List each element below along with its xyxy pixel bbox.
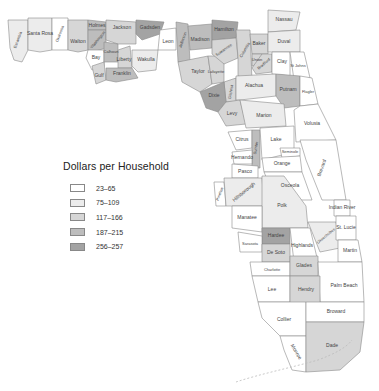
county-label: Glades	[296, 262, 312, 268]
legend-swatch	[70, 213, 85, 221]
county-label: De Soto	[267, 249, 285, 255]
county-label: Santa Rosa	[27, 30, 53, 36]
county-label: St. Lucie	[336, 224, 356, 230]
county-label: Levy	[227, 110, 238, 116]
county-label: Volusia	[304, 120, 320, 126]
county-label: Union	[252, 57, 262, 62]
county-label: Wakulla	[137, 56, 155, 62]
county-label: Alachua	[245, 82, 263, 88]
county-label: Palm Beach	[331, 282, 358, 288]
legend-label: 23–65	[96, 185, 115, 192]
legend-swatch	[70, 184, 85, 192]
county-label: Madison	[191, 36, 210, 42]
map-legend: Dollars per Household 23–6575–109117–166…	[60, 160, 240, 254]
legend-label: 117–166	[96, 214, 123, 221]
county-label: Leon	[162, 38, 173, 44]
legend-swatch	[70, 228, 85, 236]
legend-label: 256–257	[96, 243, 123, 250]
county-label: Clay	[277, 58, 288, 64]
county-label: Charlotte	[264, 267, 281, 272]
county-label: Dade	[326, 342, 338, 348]
legend-swatch	[70, 199, 85, 207]
county-label: Franklin	[113, 70, 131, 76]
county-label: St Johns	[290, 63, 306, 68]
legend-title: Dollars per Household	[63, 160, 240, 172]
county-label: Calhoun	[104, 49, 119, 54]
legend-item: 187–215	[70, 225, 240, 240]
legend-label: 75–109	[96, 199, 119, 206]
county-label: Putnam	[279, 86, 296, 92]
county-label: Gulf	[94, 72, 104, 78]
legend-item: 256–257	[70, 239, 240, 254]
county-label: Manatee	[237, 214, 257, 220]
county-label: Sarasota	[242, 241, 259, 246]
county-label: Citrus	[235, 136, 249, 142]
county-label: Dixie	[208, 92, 219, 98]
county-label: Nassau	[276, 16, 293, 22]
county-label: Lake	[271, 136, 282, 142]
county-label: Hendry	[298, 286, 315, 292]
county-label: Osceola	[281, 182, 300, 188]
legend-item: 23–65	[70, 181, 240, 196]
county-label: Hardee	[268, 232, 285, 238]
legend-item: 117–166	[70, 210, 240, 225]
legend-item: 75–109	[70, 196, 240, 211]
county-label: Pasco	[238, 168, 252, 174]
county-label: Broward	[327, 308, 346, 314]
county-walton	[68, 20, 88, 52]
county-label: Taylor	[191, 68, 205, 74]
county-label: Liberty	[116, 56, 132, 62]
county-label: Lafayette	[208, 69, 225, 74]
county-label: Indian River	[329, 204, 356, 210]
county-label: Polk	[277, 202, 287, 208]
county-label: Marion	[256, 112, 272, 118]
county-label: Seminole	[282, 149, 299, 154]
county-label: Orange	[274, 160, 291, 166]
county-label: Baker	[252, 40, 265, 46]
legend-swatch	[70, 243, 85, 251]
county-label: Flagler	[302, 89, 315, 94]
county-label: Jackson	[113, 24, 132, 30]
county-label: Duval	[278, 38, 291, 44]
county-label: Hamilton	[214, 26, 234, 32]
county-label: Highlands	[291, 242, 314, 248]
legend-label: 187–215	[96, 229, 123, 236]
county-label: Collier	[277, 316, 292, 322]
county-label: Holmes	[89, 22, 106, 28]
county-label: Lee	[268, 286, 277, 292]
county-label: Gadsden	[140, 24, 161, 30]
county-label: Martin	[343, 247, 357, 253]
county-label: Bay	[92, 54, 101, 60]
county-label: Walton	[70, 38, 86, 44]
legend-rows: 23–6575–109117–166187–215256–257	[60, 181, 240, 254]
